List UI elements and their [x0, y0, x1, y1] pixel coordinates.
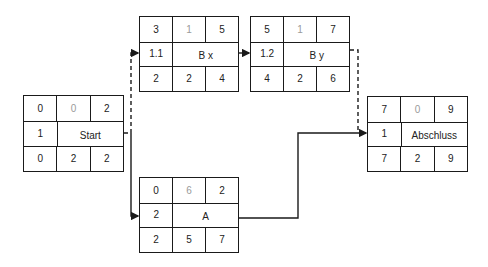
edge-by-abschluss	[350, 50, 366, 133]
earliest-finish: 9	[434, 97, 467, 122]
buffer: 0	[400, 97, 433, 122]
buffer: 1	[283, 17, 316, 42]
earliest-start: 0	[140, 178, 172, 203]
earliest-finish: 2	[90, 96, 123, 121]
node-abschluss: 7 0 9 1 Abschluss 7 2 9	[367, 96, 468, 172]
latest-start: 2	[140, 227, 172, 252]
duration: 2	[400, 146, 433, 171]
duration: 2	[283, 66, 316, 91]
node-label: Abschluss	[401, 122, 467, 147]
earliest-finish: 7	[316, 17, 349, 42]
latest-start: 7	[368, 146, 400, 171]
node-id: 1.1	[140, 42, 172, 67]
earliest-finish: 5	[205, 17, 238, 42]
duration: 2	[56, 146, 89, 171]
edge-start-a	[131, 133, 138, 216]
edge-a-abschluss	[239, 133, 358, 218]
buffer: 0	[56, 96, 89, 121]
latest-finish: 9	[434, 146, 467, 171]
buffer: 1	[172, 17, 205, 42]
latest-start: 2	[140, 66, 172, 91]
node-id: 1.2	[251, 42, 283, 67]
duration: 2	[172, 66, 205, 91]
latest-finish: 2	[90, 146, 123, 171]
earliest-start: 7	[368, 97, 400, 122]
duration: 5	[172, 227, 205, 252]
node-start: 0 0 2 1 Start 0 2 2	[23, 95, 124, 172]
node-id: 1	[24, 121, 57, 146]
buffer: 6	[172, 178, 205, 203]
node-a: 0 6 2 2 A 2 5 7	[139, 177, 239, 253]
earliest-start: 0	[24, 96, 56, 121]
node-by: 5 1 7 1.2 B y 4 2 6	[250, 16, 350, 92]
latest-finish: 7	[205, 227, 238, 252]
node-label: Start	[57, 121, 123, 146]
edge-start-bx	[124, 53, 138, 133]
node-label: B x	[172, 42, 238, 67]
node-bx: 3 1 5 1.1 B x 2 2 4	[139, 16, 239, 92]
node-label: B y	[283, 42, 349, 67]
latest-finish: 6	[316, 66, 349, 91]
node-label: A	[172, 203, 238, 228]
latest-start: 0	[24, 146, 56, 171]
node-id: 2	[140, 203, 172, 228]
node-id: 1	[368, 122, 401, 147]
latest-finish: 4	[205, 66, 238, 91]
earliest-finish: 2	[205, 178, 238, 203]
earliest-start: 3	[140, 17, 172, 42]
latest-start: 4	[251, 66, 283, 91]
earliest-start: 5	[251, 17, 283, 42]
